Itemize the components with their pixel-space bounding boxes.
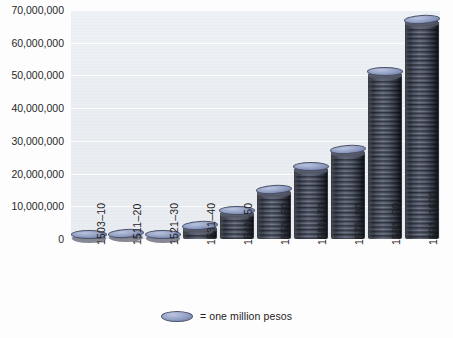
y-axis-tick-label: 20,000,000 [2, 168, 64, 180]
y-axis-tick-label: 70,000,000 [2, 4, 64, 16]
coin-top [293, 162, 329, 171]
x-axis-tick-label: 1571–80 [353, 203, 365, 245]
x-axis-tick-label: 1521–30 [168, 203, 180, 245]
chart-root: 010,000,00020,000,00030,000,00040,000,00… [0, 0, 453, 338]
y-axis-tick-label: 10,000,000 [2, 200, 64, 212]
y-axis-tick-label: 40,000,000 [2, 102, 64, 114]
x-axis-tick-label: 1561–70 [316, 203, 328, 245]
y-axis-tick-label: 50,000,000 [2, 69, 64, 81]
plot-area [71, 10, 440, 239]
y-axis-tick-label: 30,000,000 [2, 135, 64, 147]
bar-series [71, 10, 440, 239]
y-axis-tick-label: 0 [2, 233, 64, 245]
coin-top [367, 67, 403, 76]
x-axis-tick-label: 1591–1600 [427, 191, 439, 245]
x-axis-tick-label: 1541–50 [242, 203, 254, 245]
x-axis-tick-label: 1531–40 [205, 203, 217, 245]
x-axis-tick-label: 1503–10 [95, 203, 107, 245]
chart-legend: = one million pesos [0, 310, 453, 322]
coin-icon [161, 311, 193, 322]
x-axis-tick-label: 1511–20 [131, 204, 143, 246]
x-axis-tick-label: 1581–90 [390, 203, 402, 245]
legend-label: = one million pesos [200, 310, 292, 322]
x-axis-tick-label: 1551–60 [279, 203, 291, 245]
y-axis-tick-label: 60,000,000 [2, 37, 64, 49]
